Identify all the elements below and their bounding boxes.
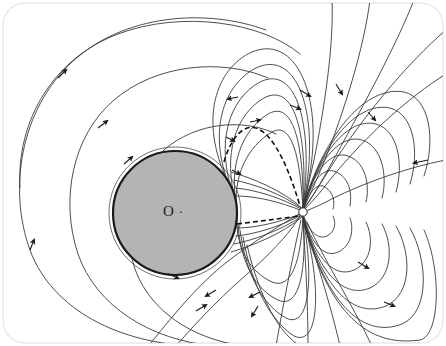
sphere-center-letter: O — [163, 203, 175, 219]
field-line-figure: O· — [0, 0, 446, 346]
dipole-point-source — [299, 208, 307, 216]
sphere-center-label: O· — [163, 203, 184, 220]
sphere-center-dot: · — [179, 204, 184, 219]
figure-canvas — [0, 0, 446, 346]
